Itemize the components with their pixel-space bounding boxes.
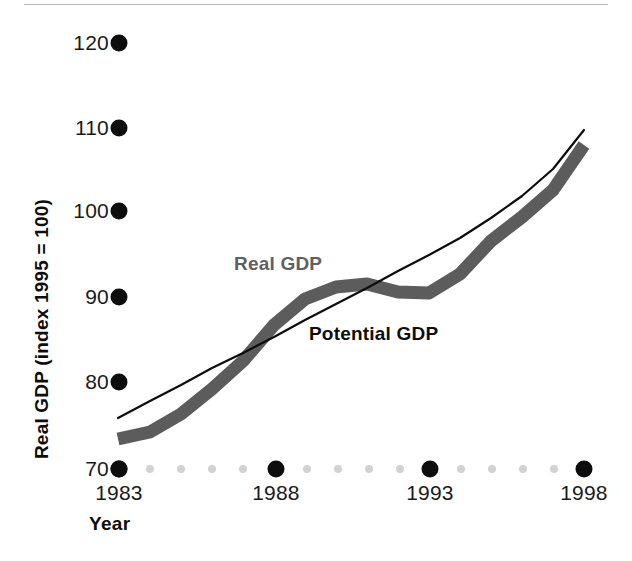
x-tick-label-1998: 1998 — [544, 481, 624, 505]
y-tick-label-80: 80 — [63, 370, 109, 394]
x-tick-label-1988: 1988 — [236, 481, 316, 505]
x-axis-minor-tick-dots — [146, 465, 558, 473]
y-tick-label-70: 70 — [63, 457, 109, 481]
x-tick-label-1983: 1983 — [79, 481, 159, 505]
chart-figure: 120 110 100 90 80 70 1983 1988 1993 1998… — [0, 0, 632, 561]
series-potential-gdp — [118, 130, 584, 418]
series-label-potential-gdp: Potential GDP — [309, 323, 438, 345]
y-axis-title: Real GDP (index 1995 = 100) — [31, 174, 53, 484]
y-axis-tick-dots — [111, 35, 128, 478]
x-axis-title: Year — [89, 513, 130, 535]
y-tick-label-120: 120 — [63, 31, 109, 55]
y-tick-label-90: 90 — [63, 285, 109, 309]
y-tick-label-110: 110 — [63, 116, 109, 140]
series-label-real-gdp: Real GDP — [234, 253, 322, 275]
y-tick-label-100: 100 — [63, 199, 109, 223]
series-real-gdp — [118, 145, 584, 439]
x-tick-label-1993: 1993 — [390, 481, 470, 505]
